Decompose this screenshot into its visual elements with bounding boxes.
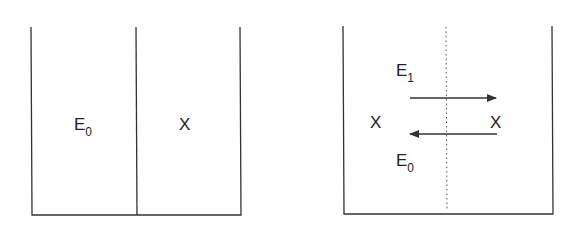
left-container: E0 X: [31, 27, 241, 215]
diagram-canvas: E0 X E1 X X E0: [0, 0, 585, 232]
left-label-x: X: [179, 115, 190, 134]
right-label-x-right: X: [490, 113, 501, 132]
left-label-e0: E0: [74, 115, 92, 139]
label-e1: E1: [396, 61, 414, 85]
dotted-divider: [446, 27, 447, 210]
solid-divider: [136, 27, 137, 215]
right-container: E1 X X E0: [343, 26, 553, 214]
label-e0-right: E0: [396, 151, 414, 175]
right-label-x-left: X: [370, 113, 381, 132]
